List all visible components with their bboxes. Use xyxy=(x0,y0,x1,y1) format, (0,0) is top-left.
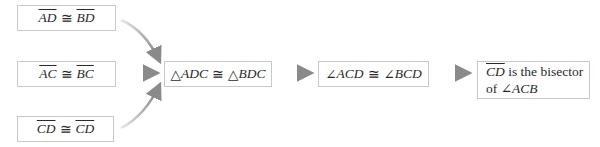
segment-cd: CD xyxy=(37,121,56,137)
angle-bcd: BCD xyxy=(395,66,422,82)
congruent-symbol: ≅ xyxy=(61,10,73,27)
angle-icon: ∠ xyxy=(384,66,395,83)
arrow-premise1-to-step1 xyxy=(121,20,160,62)
conclusion-bisector: CD is the bisector of ∠ACB xyxy=(477,61,590,99)
congruent-symbol: ≅ xyxy=(212,66,224,83)
congruent-symbol: ≅ xyxy=(60,121,72,138)
segment-ad: AD xyxy=(39,10,57,26)
congruent-symbol: ≅ xyxy=(61,66,73,83)
segment-ac: AC xyxy=(39,66,56,82)
step-triangles-congruent: △ ADC ≅ △ BDC xyxy=(164,61,272,87)
arrow-premise3-to-step1 xyxy=(121,84,160,128)
conclusion-line-2: of ∠ACB xyxy=(486,80,537,97)
triangle-icon: △ xyxy=(228,66,238,83)
congruent-symbol: ≅ xyxy=(368,66,380,83)
triangle-icon: △ xyxy=(171,66,181,83)
conclusion-line-1: CD is the bisector xyxy=(486,63,583,80)
segment-bc: BC xyxy=(77,66,94,82)
step-angles-congruent: ∠ ACD ≅ ∠ BCD xyxy=(318,61,429,87)
segment-cd: CD xyxy=(76,121,95,137)
premise-ac-bc: AC ≅ BC xyxy=(17,61,116,87)
triangle-adc: ADC xyxy=(181,66,208,82)
segment-cd: CD xyxy=(486,64,505,79)
conclusion-text: of xyxy=(486,81,501,96)
segment-bd: BD xyxy=(77,10,95,26)
premise-cd-cd: CD ≅ CD xyxy=(17,116,114,142)
conclusion-text: is the bisector xyxy=(505,64,583,79)
angle-acb: ACB xyxy=(512,81,538,96)
angle-icon: ∠ xyxy=(501,81,512,96)
angle-icon: ∠ xyxy=(325,66,336,83)
angle-acd: ACD xyxy=(337,66,364,82)
triangle-bdc: BDC xyxy=(238,66,265,82)
premise-ad-bd: AD ≅ BD xyxy=(17,5,116,31)
